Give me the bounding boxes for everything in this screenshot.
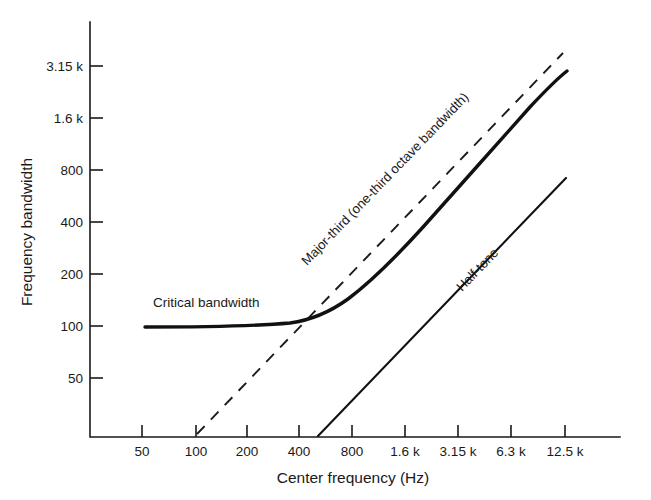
axis-lines	[90, 22, 620, 437]
chart-plot-area: 3.15 k 1.6 k 800 400 200 100 50 50 100 2…	[0, 0, 651, 500]
x-tick-label-3150: 3.15 k	[440, 444, 477, 459]
chart-figure: 3.15 k 1.6 k 800 400 200 100 50 50 100 2…	[0, 0, 651, 500]
x-tick-label-400: 400	[288, 444, 311, 459]
x-tick-label-50: 50	[134, 444, 149, 459]
x-axis-title: Center frequency (Hz)	[277, 469, 429, 486]
y-tick-label-3150: 3.15 k	[46, 59, 83, 74]
y-tick-label-800: 800	[60, 163, 83, 178]
y-axis-title: Frequency bandwidth	[18, 158, 35, 306]
y-tick-label-100: 100	[60, 319, 83, 334]
x-tick-label-6300: 6.3 k	[496, 444, 526, 459]
series-label-critical-bandwidth: Critical bandwidth	[153, 295, 260, 310]
x-tick-label-1600: 1.6 k	[390, 444, 420, 459]
series-major-third-line	[197, 53, 563, 434]
x-tick-label-800: 800	[341, 444, 364, 459]
x-tick-label-100: 100	[185, 444, 208, 459]
y-tick-label-50: 50	[68, 371, 83, 386]
x-tick-label-12500: 12.5 k	[547, 444, 584, 459]
x-tick-label-200: 200	[236, 444, 259, 459]
series-label-major-third: Major-third (one-third octave bandwidth)	[298, 89, 471, 268]
y-tick-label-400: 400	[60, 215, 83, 230]
y-tick-label-1600: 1.6 k	[54, 111, 84, 126]
y-axis-ticks: 3.15 k 1.6 k 800 400 200 100 50	[46, 59, 103, 386]
y-tick-label-200: 200	[60, 267, 83, 282]
series-label-half-tone: Half-tone	[453, 245, 501, 294]
